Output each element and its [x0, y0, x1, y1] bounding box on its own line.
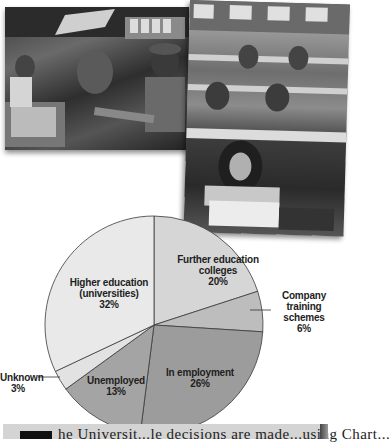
label-value: 3% — [0, 383, 36, 394]
label-line: Unknown — [0, 372, 36, 383]
label-line: schemes — [278, 312, 330, 323]
label-unemployed: Unemployed 13% — [86, 375, 146, 397]
label-line: In employment — [160, 367, 240, 378]
bottom-text-strip: he Universit...le decisions are made...u… — [3, 424, 320, 439]
bottom-text: he Universit...le decisions are made...u… — [58, 426, 390, 443]
page-edge-shadow — [320, 424, 328, 439]
label-line: Company — [278, 290, 330, 301]
label-line: Higher education — [64, 277, 154, 288]
label-company-training: Company training schemes 6% — [278, 290, 330, 334]
label-value: 13% — [86, 386, 146, 397]
label-value: 26% — [160, 378, 240, 389]
label-in-employment: In employment 26% — [160, 367, 240, 389]
pie-slices — [45, 216, 263, 434]
label-further-education: Further education colleges 20% — [170, 254, 266, 287]
label-line: Further education — [170, 254, 266, 265]
label-line: Unemployed — [86, 375, 146, 386]
label-value: 6% — [278, 323, 330, 334]
label-higher-education: Higher education (universities) 32% — [64, 277, 154, 310]
label-unknown: Unknown 3% — [0, 372, 36, 394]
label-line: (universities) — [64, 288, 154, 299]
label-value: 20% — [170, 276, 266, 287]
section-marker — [20, 431, 52, 439]
label-line: training — [278, 301, 330, 312]
label-value: 32% — [64, 299, 154, 310]
label-line: colleges — [170, 265, 266, 276]
